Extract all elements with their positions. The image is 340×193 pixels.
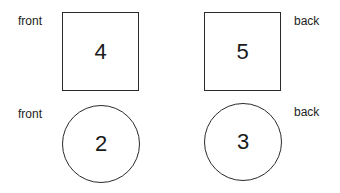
circle-card-3: 3 bbox=[204, 103, 282, 181]
front-label-top: front bbox=[18, 14, 42, 28]
card-number: 5 bbox=[236, 39, 248, 65]
card-number: 4 bbox=[94, 39, 106, 65]
square-card-5: 5 bbox=[204, 12, 281, 91]
back-label-bottom: back bbox=[294, 105, 319, 119]
front-label-bottom: front bbox=[18, 107, 42, 121]
circle-card-2: 2 bbox=[62, 105, 140, 183]
card-number: 2 bbox=[95, 131, 107, 157]
back-label-top: back bbox=[294, 14, 319, 28]
card-number: 3 bbox=[237, 129, 249, 155]
square-card-4: 4 bbox=[62, 12, 139, 91]
